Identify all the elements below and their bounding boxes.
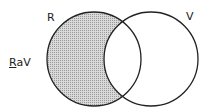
set-label-v: V (186, 11, 194, 22)
expression-label: RaV (9, 57, 31, 68)
expression-second: V (23, 56, 31, 69)
set-label-r: R (47, 12, 55, 23)
venn-diagram (0, 0, 211, 112)
